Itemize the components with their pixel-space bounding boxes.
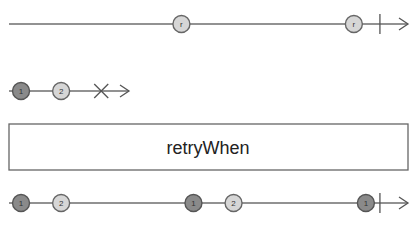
marble-label: 1: [19, 199, 24, 208]
notifier-timeline: rr: [9, 14, 408, 34]
marble-label: 2: [231, 199, 236, 208]
marble: 1: [185, 195, 202, 212]
marble: 1: [357, 195, 374, 212]
marble-label: 1: [364, 199, 369, 208]
marble-label: 2: [59, 199, 64, 208]
marble: r: [173, 16, 190, 33]
output-timeline: 12121: [9, 193, 408, 213]
marble-label: 1: [19, 87, 24, 96]
marble-diagram: rr 12 retryWhen 12121: [0, 0, 419, 227]
source-timeline: 12: [9, 83, 129, 100]
marble: 1: [13, 83, 30, 100]
marble: 2: [53, 195, 70, 212]
marble: 2: [53, 83, 70, 100]
marble: 2: [225, 195, 242, 212]
marble: r: [345, 16, 362, 33]
marble: 1: [13, 195, 30, 212]
marble-label: 2: [59, 87, 64, 96]
marble-label: r: [353, 20, 356, 29]
marble-label: r: [180, 20, 183, 29]
operator-label: retryWhen: [166, 138, 249, 158]
marble-label: 1: [191, 199, 196, 208]
operator-box: retryWhen: [9, 124, 408, 170]
